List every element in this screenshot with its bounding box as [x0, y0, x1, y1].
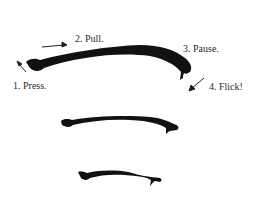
- step-1-label: 1. Press.: [13, 80, 47, 91]
- brush-stroke-diagram: [0, 0, 262, 211]
- large-brush-stroke: [26, 45, 191, 80]
- medium-brush-stroke: [61, 116, 178, 134]
- arrow-press-icon: [17, 61, 26, 72]
- step-2-label: 2. Pull.: [75, 33, 104, 44]
- step-4-label: 4. Flick!: [209, 81, 243, 92]
- arrow-flick-icon: [189, 78, 204, 91]
- arrow-pull-icon: [42, 42, 67, 47]
- step-3-label: 3. Pause.: [183, 43, 219, 54]
- small-brush-stroke: [78, 171, 162, 186]
